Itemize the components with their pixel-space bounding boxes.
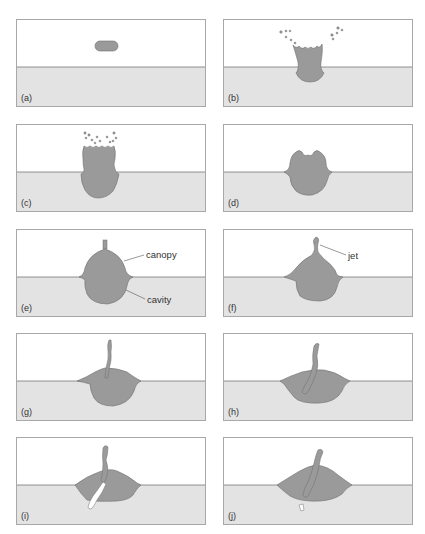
panel-g-drawing xyxy=(17,334,206,421)
panel-c: (c) xyxy=(16,124,206,212)
panel-e-drawing xyxy=(17,230,206,317)
ejected-droplets xyxy=(280,27,343,44)
panel-i-drawing xyxy=(17,438,206,525)
jet-leader xyxy=(320,245,346,255)
panel-j-drawing xyxy=(224,438,413,525)
panel-label: (c) xyxy=(21,198,32,208)
crown-splash xyxy=(293,44,324,82)
panel-h: (h) xyxy=(223,333,413,421)
panel-label: (e) xyxy=(21,303,32,313)
panel-label: (f) xyxy=(228,303,237,313)
panel-d-drawing xyxy=(224,125,413,212)
panel-label: (j) xyxy=(228,511,236,521)
canopy-leader xyxy=(124,255,144,261)
panel-g: (g) xyxy=(16,333,206,421)
cavity-annotation: cavity xyxy=(147,294,171,305)
panel-f: jet (f) xyxy=(223,229,413,317)
panel-label: (g) xyxy=(21,407,32,417)
panel-label: (d) xyxy=(228,198,239,208)
panel-h-drawing xyxy=(224,334,413,421)
panel-label: (a) xyxy=(21,93,32,103)
panel-b: (b) xyxy=(223,19,413,107)
panel-label: (i) xyxy=(21,511,29,521)
panel-d: (d) xyxy=(223,124,413,212)
panel-i: (i) xyxy=(16,437,206,525)
panel-j: (j) xyxy=(223,437,413,525)
falling-drop xyxy=(95,41,118,51)
jet-annotation: jet xyxy=(348,250,358,261)
small-jet xyxy=(103,240,107,249)
panel-label: (b) xyxy=(228,93,239,103)
ejected-droplets xyxy=(84,132,117,144)
panel-a-drawing xyxy=(17,20,206,107)
panel-label: (h) xyxy=(228,407,239,417)
panel-b-drawing xyxy=(224,20,413,107)
panel-e: canopy cavity (e) xyxy=(16,229,206,317)
mound-and-cavity xyxy=(75,470,141,502)
panel-f-drawing xyxy=(224,230,413,317)
crater-crown xyxy=(81,146,119,198)
panel-c-drawing xyxy=(17,125,206,212)
panel-a: (a) xyxy=(16,19,206,107)
canopy-annotation: canopy xyxy=(146,249,177,260)
